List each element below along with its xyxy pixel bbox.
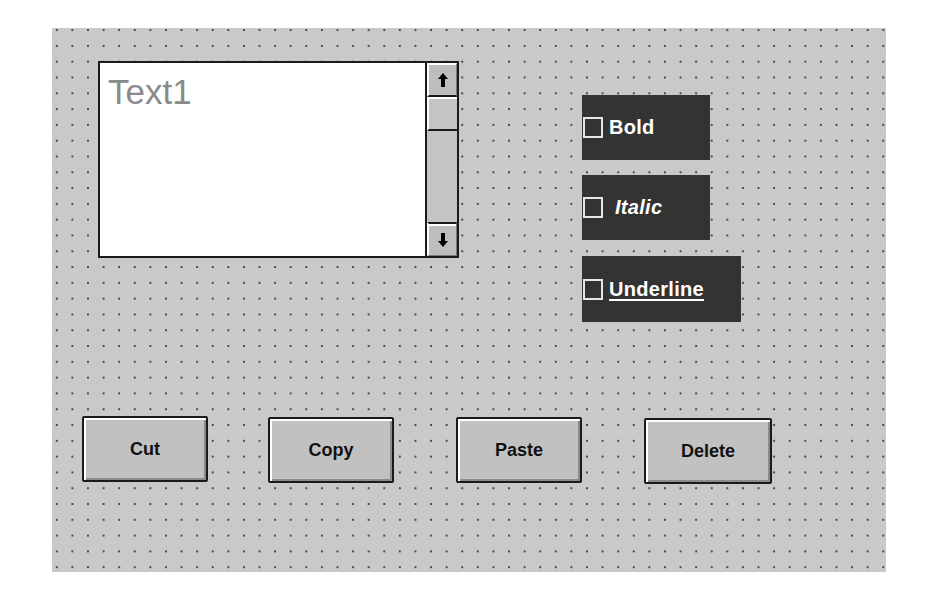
scroll-up-button[interactable]	[427, 63, 457, 97]
textbox-value: Text1	[108, 74, 192, 109]
cut-button[interactable]: Cut	[82, 416, 208, 482]
checkbox-square[interactable]	[583, 197, 603, 218]
checkbox-square[interactable]	[583, 117, 603, 138]
underline-checkbox-label: Underline	[609, 278, 704, 301]
checkbox-square[interactable]	[583, 279, 603, 300]
scroll-thumb[interactable]	[427, 97, 457, 131]
copy-button[interactable]: Copy	[268, 417, 394, 483]
vertical-scrollbar[interactable]	[425, 63, 457, 256]
paste-button[interactable]: Paste	[456, 417, 582, 483]
arrow-up-icon	[437, 72, 449, 88]
bold-checkbox[interactable]: Bold	[582, 95, 710, 160]
italic-checkbox-label: Italic	[615, 196, 662, 219]
bold-checkbox-label: Bold	[609, 116, 655, 139]
underline-checkbox[interactable]: Underline	[582, 256, 741, 322]
scroll-down-button[interactable]	[427, 222, 457, 256]
delete-button[interactable]: Delete	[644, 418, 772, 484]
text1-textbox[interactable]: Text1	[98, 61, 459, 258]
arrow-down-icon	[437, 232, 449, 248]
italic-checkbox[interactable]: Italic	[582, 175, 710, 240]
